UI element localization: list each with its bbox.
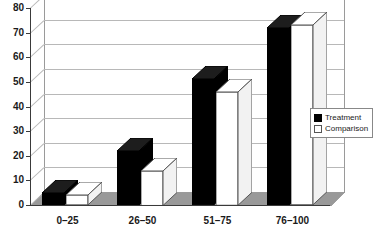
gridline-connector — [30, 0, 45, 9]
y-axis-tick-label: 50 — [0, 77, 24, 87]
back-wall-right-edge — [344, 0, 345, 192]
y-axis-tick-label: 70 — [0, 28, 24, 38]
y-axis-tick-mark — [26, 107, 30, 108]
legend-swatch-filled-square-icon — [314, 114, 322, 122]
back-wall-left-edge — [44, 0, 45, 192]
gridline-connector — [30, 44, 45, 58]
bar-chart-figure: 01020304050607080 0–2526–5051–7576–100 T… — [0, 0, 391, 240]
bar-shape — [66, 182, 102, 205]
gridline-connector — [30, 143, 45, 157]
y-axis-line — [30, 8, 31, 205]
x-axis-tick-label: 76–100 — [255, 215, 330, 226]
bar-shape — [216, 79, 252, 205]
y-axis-tick-mark — [26, 180, 30, 181]
y-axis-tick-label: 10 — [0, 175, 24, 185]
y-axis-tick-label: 20 — [0, 151, 24, 161]
x-axis-tick-label: 0–25 — [30, 215, 105, 226]
y-axis-tick-mark — [26, 82, 30, 83]
bar-comparison-1 — [141, 158, 177, 205]
x-axis-tick-label: 26–50 — [105, 215, 180, 226]
y-axis-tick-label: 30 — [0, 126, 24, 136]
y-axis-tick-mark — [26, 33, 30, 34]
y-axis-tick-mark — [26, 8, 30, 9]
y-axis-tick-label: 80 — [0, 3, 24, 13]
bar-comparison-2 — [216, 79, 252, 205]
gridline-connector — [30, 94, 45, 108]
x-axis-line — [30, 205, 330, 206]
legend-item-comparison: Comparison — [314, 123, 368, 134]
chart-legend: Treatment Comparison — [310, 108, 373, 138]
y-axis-tick-label: 40 — [0, 102, 24, 112]
legend-label-comparison: Comparison — [325, 124, 368, 133]
y-axis-tick-mark — [26, 131, 30, 132]
gridline-connector — [30, 20, 45, 34]
legend-item-treatment: Treatment — [314, 112, 368, 123]
gridline-connector — [30, 118, 45, 132]
y-axis-tick-mark — [26, 156, 30, 157]
y-axis-tick-label: 0 — [0, 200, 24, 210]
y-axis-tick-mark — [26, 57, 30, 58]
x-axis-tick-label: 51–75 — [180, 215, 255, 226]
legend-swatch-hollow-square-icon — [314, 125, 322, 133]
legend-label-treatment: Treatment — [325, 113, 361, 122]
gridline-connector — [30, 69, 45, 83]
bar-shape — [141, 158, 177, 205]
bar-comparison-0 — [66, 182, 102, 205]
y-axis-tick-label: 60 — [0, 52, 24, 62]
